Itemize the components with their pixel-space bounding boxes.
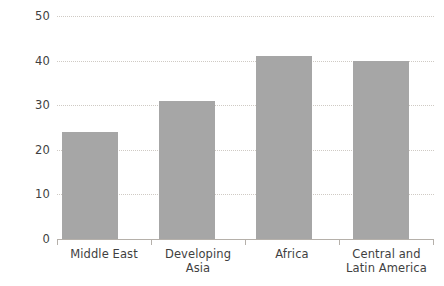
- x-tick-label-developing-asia: Developing Asia: [151, 247, 245, 275]
- x-tick-4: [433, 240, 434, 245]
- y-tick-label-10: 10: [8, 188, 50, 200]
- x-tick-3: [339, 240, 340, 245]
- bar-middle-east: [62, 132, 118, 239]
- bar-developing-asia: [159, 101, 215, 239]
- y-tick-label-0: 0: [8, 233, 50, 245]
- x-tick-label-africa: Africa: [245, 247, 339, 261]
- y-tick-label-30: 30: [8, 99, 50, 111]
- x-tick-label-central-and-latin-america: Central and Latin America: [339, 247, 434, 275]
- x-tick-1: [151, 240, 152, 245]
- x-axis: Middle East Developing Asia Africa Centr…: [57, 247, 434, 286]
- x-tick-label-middle-east: Middle East: [57, 247, 151, 261]
- gridline-50: [57, 16, 434, 17]
- y-axis: 50 40 30 20 10 0: [0, 0, 50, 286]
- x-tick-2: [245, 240, 246, 245]
- y-tick-label-40: 40: [8, 55, 50, 67]
- y-tick-label-20: 20: [8, 144, 50, 156]
- x-tick-0: [57, 240, 58, 245]
- bar-chart: 50 40 30 20 10 0 Middle East Developing …: [0, 0, 444, 286]
- bar-central-and-latin-america: [353, 61, 409, 239]
- y-tick-label-50: 50: [8, 10, 50, 22]
- plot-area: [57, 16, 434, 239]
- bar-africa: [256, 56, 312, 239]
